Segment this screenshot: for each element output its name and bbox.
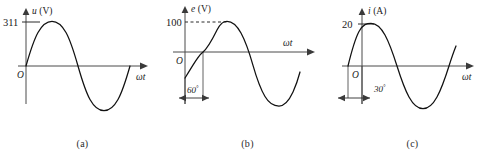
peak-value-label-c: 20 (342, 19, 353, 30)
waveform-chart-a: 311 u(V) O ωt (0, 0, 165, 153)
phase-angle-label-b: 60° (187, 85, 199, 96)
y-axis-label-a: u(V) (32, 6, 52, 17)
x-axis-arrowhead-c (466, 63, 474, 70)
origin-label-a: O (17, 70, 24, 80)
waveform-chart-c: 20 i(A) O ωt 30° (330, 0, 495, 153)
caption-c: (c) (330, 138, 495, 149)
y-axis-arrowhead-b (182, 6, 189, 13)
peak-value-label-b: 100 (166, 17, 182, 28)
sine-curve-b (185, 21, 300, 106)
x-axis-label-a: ωt (136, 72, 146, 82)
phase-arrow-left-c (338, 95, 345, 101)
x-axis-label-c: ωt (462, 72, 472, 82)
figure-row: 311 u(V) O ωt (a) 100 (0, 0, 495, 153)
phase-angle-label-c: 30° (373, 84, 386, 95)
panel-c: 20 i(A) O ωt 30° (c) (330, 0, 495, 153)
panel-a: 311 u(V) O ωt (a) (0, 0, 165, 153)
origin-label-b: O (176, 56, 183, 66)
caption-b: (b) (165, 138, 330, 149)
phase-arrow-right-c (363, 95, 370, 101)
waveform-chart-b: 100 e(V) O ωt 60° (165, 0, 330, 153)
x-axis-arrowhead-a (140, 63, 148, 70)
y-axis-label-c: i(A) (368, 6, 386, 17)
y-axis-arrowhead-c (359, 8, 366, 15)
x-axis-label-b: ωt (283, 38, 293, 48)
phase-arrow-right-b (202, 95, 209, 101)
y-axis-label-b: e(V) (191, 4, 211, 15)
x-axis-arrowhead-b (307, 49, 315, 56)
caption-a: (a) (0, 138, 165, 149)
peak-value-label-a: 311 (3, 17, 18, 28)
y-axis-arrowhead-a (23, 8, 30, 15)
panel-b: 100 e(V) O ωt 60° (b) (165, 0, 330, 153)
origin-label-c: O (352, 70, 359, 80)
